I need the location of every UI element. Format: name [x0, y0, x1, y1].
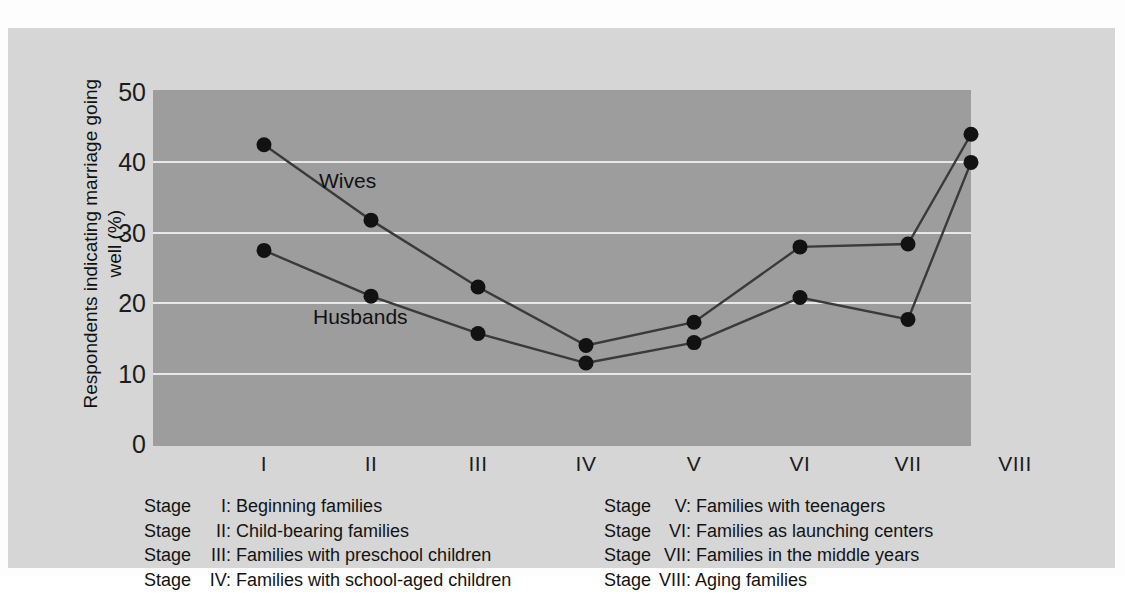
legend-stage-description: Families in the middle years: [691, 543, 919, 568]
data-point-wives-VI: [793, 239, 808, 254]
legend-stage-description: Families as launching centers: [691, 519, 933, 544]
legend-stage-word: Stage: [144, 494, 191, 519]
x-tick-label-vi: VI: [790, 452, 811, 476]
y-tick-label-0: 0: [86, 432, 146, 457]
legend-stage-word: Stage: [604, 494, 651, 519]
legend-stage-numeral: III:: [191, 543, 231, 568]
data-point-husbands-VIII: [964, 155, 979, 170]
legend-left-row: StageIV: Families with school-aged child…: [144, 568, 511, 593]
chart-panel: Respondents indicating marriage going we…: [8, 28, 1115, 568]
x-tick-label-v: V: [687, 452, 702, 476]
legend-column-left: StageI: Beginning familiesStageII: Child…: [144, 494, 511, 593]
legend-stage-numeral: V:: [651, 494, 691, 519]
data-point-husbands-VII: [901, 312, 916, 327]
y-tick-label-50: 50: [86, 80, 146, 105]
y-tick-label-10: 10: [86, 361, 146, 386]
series-layer: [153, 90, 971, 446]
legend-stage-description: Child-bearing families: [231, 519, 409, 544]
data-point-husbands-IV: [579, 356, 594, 371]
legend-stage-word: Stage: [604, 519, 651, 544]
y-tick-label-30: 30: [86, 220, 146, 245]
data-point-husbands-I: [257, 243, 272, 258]
legend-stage-word: Stage: [144, 519, 191, 544]
data-point-wives-III: [471, 280, 486, 295]
data-point-husbands-II: [364, 289, 379, 304]
x-tick-label-iv: IV: [576, 452, 597, 476]
legend-stage-numeral: VIII:: [651, 568, 691, 593]
data-point-wives-VIII: [964, 127, 979, 142]
x-tick-label-viii: VIII: [998, 452, 1032, 476]
legend-stage-word: Stage: [604, 543, 651, 568]
series-label-wives: Wives: [319, 169, 376, 193]
data-point-husbands-VI: [793, 290, 808, 305]
legend-right-row: StageVI: Families as launching centers: [604, 519, 933, 544]
legend-stage-description: Families with school-aged children: [231, 568, 511, 593]
legend-stage-numeral: IV:: [191, 568, 231, 593]
y-axis-ticks: 01020304050: [70, 90, 146, 446]
legend-left-row: StageII: Child-bearing families: [144, 519, 511, 544]
legend-stage-word: Stage: [144, 543, 191, 568]
stage-legend: StageI: Beginning familiesStageII: Child…: [16, 494, 1123, 589]
data-point-husbands-III: [471, 326, 486, 341]
legend-stage-numeral: I:: [191, 494, 231, 519]
legend-right-row: StageVII: Families in the middle years: [604, 543, 933, 568]
x-tick-label-vii: VII: [894, 452, 921, 476]
legend-stage-word: Stage: [144, 568, 191, 593]
legend-stage-word: Stage: [604, 568, 651, 593]
x-tick-label-i: I: [261, 452, 267, 476]
data-point-wives-II: [364, 213, 379, 228]
legend-left-row: StageIII: Families with preschool childr…: [144, 543, 511, 568]
legend-stage-numeral: VI:: [651, 519, 691, 544]
data-point-husbands-V: [687, 335, 702, 350]
series-label-husbands: Husbands: [313, 305, 408, 329]
data-point-wives-I: [257, 137, 272, 152]
legend-stage-numeral: II:: [191, 519, 231, 544]
legend-left-row: StageI: Beginning families: [144, 494, 511, 519]
legend-right-row: StageV: Families with teenagers: [604, 494, 933, 519]
x-axis-ticks: IIIIIIIVVVIVIIVIII: [153, 452, 971, 492]
legend-stage-description: Aging families: [691, 568, 807, 593]
legend-stage-description: Families with teenagers: [691, 494, 885, 519]
legend-right-row: StageVIII: Aging families: [604, 568, 933, 593]
legend-stage-description: Beginning families: [231, 494, 382, 519]
y-tick-label-20: 20: [86, 291, 146, 316]
data-point-wives-VII: [901, 237, 916, 252]
x-tick-label-iii: III: [468, 452, 487, 476]
legend-column-right: StageV: Families with teenagersStageVI: …: [604, 494, 933, 593]
legend-stage-numeral: VII:: [651, 543, 691, 568]
data-point-wives-V: [687, 315, 702, 330]
x-tick-label-ii: II: [365, 452, 378, 476]
y-tick-label-40: 40: [86, 150, 146, 175]
legend-stage-description: Families with preschool children: [231, 543, 491, 568]
data-point-wives-IV: [579, 338, 594, 353]
